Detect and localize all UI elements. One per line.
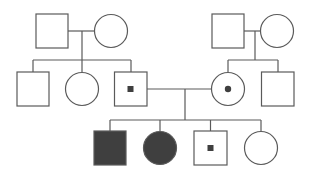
individual-III-1-male-affected (94, 131, 126, 165)
individual-III-4-female (245, 132, 278, 165)
carrier-marker-II-3-icon (128, 86, 134, 92)
individual-I-3-male (212, 14, 244, 48)
carrier-marker-III-3-icon (208, 145, 214, 151)
individual-I-1-male (36, 14, 68, 48)
individual-II-1-male (17, 72, 49, 106)
individual-II-2-female (66, 73, 99, 106)
individual-II-5-male (262, 72, 295, 106)
carrier-marker-II-4-icon (225, 86, 231, 92)
individual-I-4-female (261, 15, 294, 48)
individual-III-2-female-affected (144, 132, 177, 165)
pedigree-chart (0, 0, 309, 173)
individual-I-2-female (95, 15, 128, 48)
